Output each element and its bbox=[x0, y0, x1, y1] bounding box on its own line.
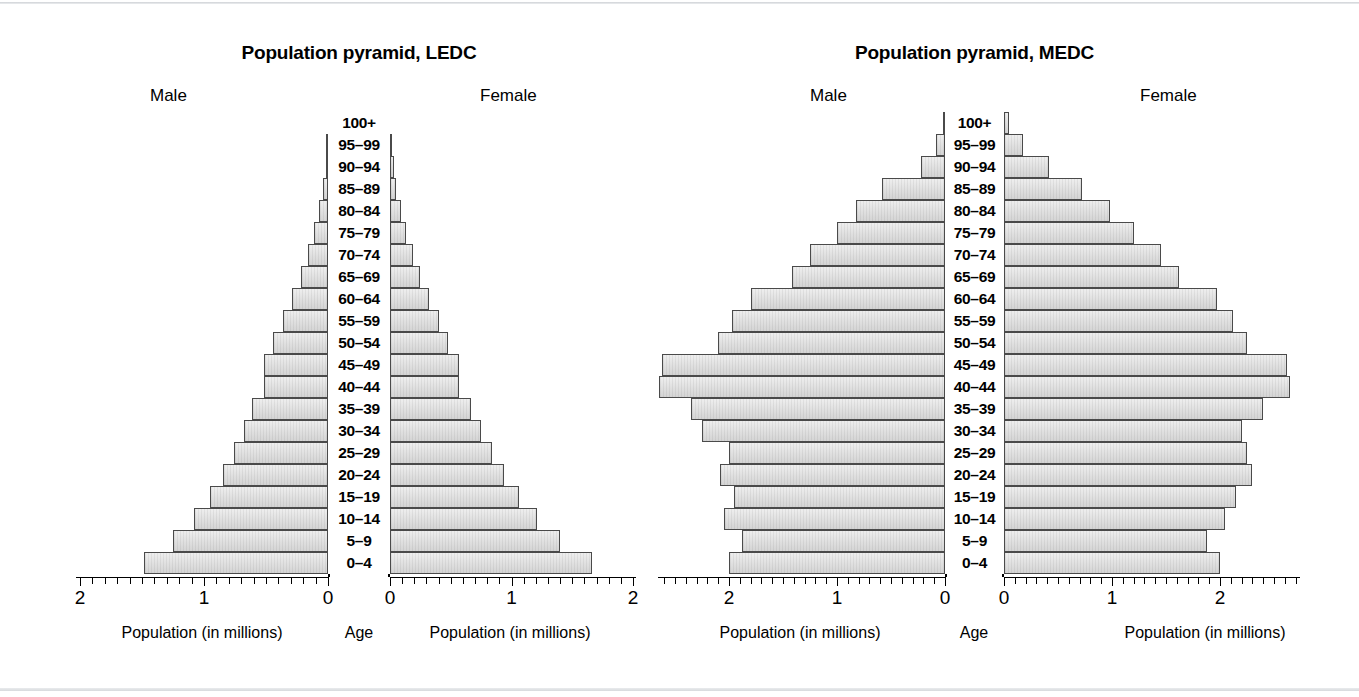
axis-tick-minor bbox=[414, 577, 415, 584]
male-bar-cell bbox=[658, 442, 945, 464]
axis-tick-minor bbox=[1123, 577, 1124, 584]
male-bar-cell bbox=[658, 508, 945, 530]
pyramid-row: 20–24 bbox=[76, 464, 636, 486]
bar-female-90-94 bbox=[1004, 156, 1049, 178]
axis-caption: Population (in millions) bbox=[430, 624, 591, 642]
pyramid-row: 100+ bbox=[658, 112, 1300, 134]
bar-female-0-4 bbox=[1004, 552, 1220, 574]
axis-tick-minor bbox=[880, 577, 881, 584]
axis-tick-minor bbox=[316, 577, 317, 584]
age-group-label: 75–79 bbox=[328, 222, 390, 244]
bar-male-5-9 bbox=[173, 530, 328, 552]
male-bar-cell bbox=[76, 464, 328, 486]
axis-tick-minor bbox=[439, 577, 440, 584]
bar-male-50-54 bbox=[718, 332, 945, 354]
chart-panel-medc: Population pyramid, MEDC Male Female 100… bbox=[650, 0, 1350, 697]
bar-male-20-24 bbox=[223, 464, 328, 486]
axis-tick-minor bbox=[1155, 577, 1156, 584]
pyramid-row: 100+ bbox=[76, 112, 636, 134]
pyramid-row: 45–49 bbox=[658, 354, 1300, 376]
axis-tick-major bbox=[328, 577, 329, 586]
age-group-label: 5–9 bbox=[945, 530, 1004, 552]
female-bar-cell bbox=[390, 508, 636, 530]
axis-tick-minor bbox=[1036, 577, 1037, 584]
bar-male-25-29 bbox=[234, 442, 328, 464]
male-bar-cell bbox=[76, 112, 328, 134]
age-group-label: 25–29 bbox=[328, 442, 390, 464]
axis-tick-minor bbox=[1134, 577, 1135, 584]
bar-male-85-89 bbox=[882, 178, 945, 200]
male-bar-cell bbox=[658, 200, 945, 222]
pyramid-row: 70–74 bbox=[76, 244, 636, 266]
male-bar-cell bbox=[658, 376, 945, 398]
axis-tick-minor bbox=[686, 577, 687, 584]
male-bar-cell bbox=[76, 508, 328, 530]
axis-tick-minor bbox=[117, 577, 118, 584]
axis-tick-minor bbox=[772, 577, 773, 584]
female-header-medc: Female bbox=[1140, 86, 1197, 106]
pyramid-row: 5–9 bbox=[76, 530, 636, 552]
bar-female-15-19 bbox=[390, 486, 519, 508]
bar-male-0-4 bbox=[144, 552, 328, 574]
pyramid-row: 15–19 bbox=[658, 486, 1300, 508]
female-bar-cell bbox=[1004, 178, 1300, 200]
female-bar-cell bbox=[390, 156, 636, 178]
bar-female-50-54 bbox=[390, 332, 448, 354]
age-group-label: 20–24 bbox=[945, 464, 1004, 486]
male-bar-cell bbox=[76, 266, 328, 288]
bar-male-0-4 bbox=[729, 552, 945, 574]
axis-tick-label: 1 bbox=[1107, 587, 1118, 609]
age-group-label: 35–39 bbox=[945, 398, 1004, 420]
male-bar-cell bbox=[76, 200, 328, 222]
bar-male-60-64 bbox=[751, 288, 945, 310]
axis-tick-label: 2 bbox=[628, 587, 639, 609]
axis-tick-major bbox=[729, 577, 730, 586]
age-group-label: 60–64 bbox=[328, 288, 390, 310]
bar-female-25-29 bbox=[390, 442, 492, 464]
axis-tick-minor bbox=[130, 577, 131, 584]
axis-tick-minor bbox=[1047, 577, 1048, 584]
male-bar-cell bbox=[76, 332, 328, 354]
plot-area-ledc: 100+95–9990–9485–8980–8475–7970–7465–696… bbox=[76, 112, 636, 577]
figure-canvas: Population pyramid, LEDC Male Female 100… bbox=[0, 0, 1359, 697]
bar-male-5-9 bbox=[742, 530, 945, 552]
axis-tick-minor bbox=[675, 577, 676, 584]
axis-tick-minor bbox=[524, 577, 525, 584]
female-bar-cell bbox=[1004, 156, 1300, 178]
axis-tick-label: 1 bbox=[506, 587, 517, 609]
pyramid-row: 75–79 bbox=[76, 222, 636, 244]
female-bar-cell bbox=[1004, 288, 1300, 310]
axis-caption: Population (in millions) bbox=[1125, 624, 1286, 642]
bar-male-55-59 bbox=[732, 310, 945, 332]
pyramid-row: 5–9 bbox=[658, 530, 1300, 552]
bar-male-30-34 bbox=[244, 420, 328, 442]
pyramid-row: 25–29 bbox=[76, 442, 636, 464]
bar-male-40-44 bbox=[264, 376, 328, 398]
age-group-label: 75–79 bbox=[945, 222, 1004, 244]
male-bar-cell bbox=[658, 420, 945, 442]
female-bar-cell bbox=[390, 310, 636, 332]
axis-tick-minor bbox=[1080, 577, 1081, 584]
bar-rows-medc: 100+95–9990–9485–8980–8475–7970–7465–696… bbox=[658, 112, 1300, 574]
pyramid-row: 95–99 bbox=[658, 134, 1300, 156]
x-axis-female-medc bbox=[1004, 577, 1300, 578]
bar-male-80-84 bbox=[319, 200, 328, 222]
axis-tick-minor bbox=[1252, 577, 1253, 584]
pyramid-row: 65–69 bbox=[658, 266, 1300, 288]
age-group-label: 45–49 bbox=[328, 354, 390, 376]
female-bar-cell bbox=[1004, 486, 1300, 508]
axis-tick-minor bbox=[826, 577, 827, 584]
bar-female-40-44 bbox=[1004, 376, 1290, 398]
bar-male-70-74 bbox=[308, 244, 328, 266]
pyramid-row: 90–94 bbox=[658, 156, 1300, 178]
female-bar-cell bbox=[390, 134, 636, 156]
bar-male-15-19 bbox=[210, 486, 328, 508]
bar-male-35-39 bbox=[691, 398, 945, 420]
age-group-label: 45–49 bbox=[945, 354, 1004, 376]
bar-female-80-84 bbox=[390, 200, 401, 222]
axis-tick-minor bbox=[536, 577, 537, 584]
axis-tick-minor bbox=[142, 577, 143, 584]
age-group-label: 20–24 bbox=[328, 464, 390, 486]
bar-male-95-99 bbox=[936, 134, 945, 156]
axis-tick-minor bbox=[451, 577, 452, 584]
